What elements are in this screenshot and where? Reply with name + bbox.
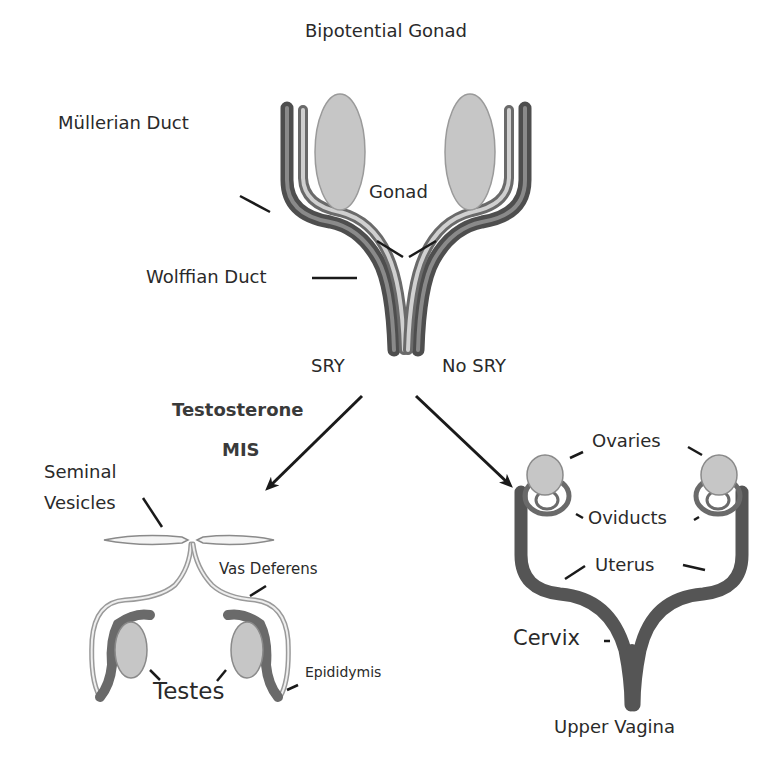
diagram-title: Bipotential Gonad [305,22,467,40]
left-testis [115,622,147,678]
mis-label: MIS [222,441,260,459]
testosterone-label: Testosterone [172,401,304,419]
right-gonad [445,94,495,210]
mullerian-duct-label: Müllerian Duct [58,114,189,132]
oviducts-label: Oviducts [588,509,667,527]
right-seminal-vesicle [197,536,274,545]
gonad-label: Gonad [369,183,428,201]
male-reproductive-graphic [92,498,298,697]
left-ovary [527,455,563,495]
bipotential-gonad-graphic [240,94,525,350]
no-sry-label: No SRY [442,357,506,375]
left-seminal-vesicle [104,536,188,545]
testes-label: Testes [153,680,224,703]
no-sry-arrow [416,396,510,485]
ovaries-label: Ovaries [592,432,661,450]
seminal-label-line1: Seminal [44,463,116,481]
cervix-label: Cervix [513,628,580,649]
seminal-label-line2: Vesicles [44,494,116,512]
wolffian-duct-label: Wolffian Duct [146,268,267,286]
female-reproductive-graphic [521,447,742,705]
epididymis-label: Epididymis [305,665,381,679]
upper-vagina-label: Upper Vagina [554,718,675,736]
sry-label: SRY [311,357,345,375]
vas-deferens-label: Vas Deferens [219,562,318,577]
left-gonad [315,94,365,210]
sex-differentiation-diagram: Bipotential Gonad Müllerian Duct Gonad W… [0,0,780,772]
mullerian-leader-line [240,196,270,212]
right-ovary [701,455,737,495]
uterus-label: Uterus [595,556,655,574]
right-testis [231,622,263,678]
